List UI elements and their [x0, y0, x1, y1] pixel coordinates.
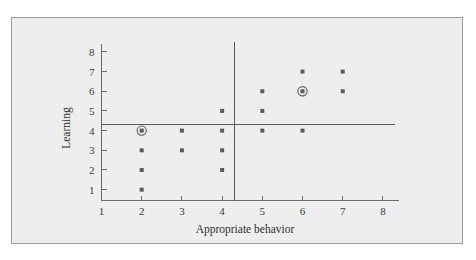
- data-point: [260, 89, 264, 93]
- x-tick-label: 6: [300, 205, 306, 217]
- data-point: [260, 129, 264, 133]
- data-point: [220, 148, 224, 152]
- y-tick-label: 3: [89, 144, 95, 156]
- data-point: [341, 70, 345, 74]
- y-tick-label: 8: [89, 46, 95, 58]
- data-point: [180, 148, 184, 152]
- x-tick-label: 5: [260, 205, 266, 217]
- data-point: [301, 129, 305, 133]
- x-tick-label: 8: [380, 205, 386, 217]
- data-points-group: [137, 70, 345, 192]
- x-tick-label: 2: [139, 205, 145, 217]
- y-tick-label: 4: [89, 125, 95, 137]
- reference-lines-group: [102, 42, 396, 201]
- data-point: [301, 70, 305, 74]
- x-tick-label: 1: [99, 205, 105, 217]
- figure-root: 1234567812345678 Appropriate behavior Le…: [0, 0, 476, 260]
- y-tick-label: 6: [89, 85, 95, 97]
- y-tick-label: 7: [89, 66, 95, 78]
- data-point: [140, 148, 144, 152]
- data-point: [260, 109, 264, 113]
- data-point: [341, 89, 345, 93]
- data-point: [220, 109, 224, 113]
- data-point-highlighted: [301, 89, 305, 93]
- y-tick-label: 1: [89, 184, 95, 196]
- y-axis-title: Learning: [60, 107, 73, 149]
- x-axis-title: Appropriate behavior: [196, 223, 295, 236]
- x-tick-label: 4: [219, 205, 225, 217]
- data-point: [140, 188, 144, 192]
- data-point: [180, 129, 184, 133]
- scatter-plot: 1234567812345678 Appropriate behavior Le…: [0, 0, 476, 260]
- axes-group: [102, 44, 400, 201]
- x-tick-label: 7: [340, 205, 346, 217]
- y-tick-label: 5: [89, 105, 95, 117]
- x-tick-label: 3: [179, 205, 185, 217]
- y-tick-label: 2: [89, 164, 95, 176]
- data-point: [220, 129, 224, 133]
- data-point-highlighted: [140, 129, 144, 133]
- data-point: [140, 168, 144, 172]
- data-point: [220, 168, 224, 172]
